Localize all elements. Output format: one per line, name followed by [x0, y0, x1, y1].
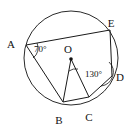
angle-label-130: 130° — [85, 69, 103, 79]
point-label-b: B — [55, 114, 62, 126]
point-label-e: E — [108, 17, 115, 29]
center-point-dot — [69, 57, 73, 61]
segment-o-b — [63, 59, 71, 102]
segment-b-c — [63, 97, 89, 102]
point-label-d: D — [116, 71, 124, 83]
geometry-canvas: A B C D E O 70° 130° — [0, 0, 135, 130]
geometry-figure: A B C D E O 70° 130° — [0, 0, 135, 130]
point-label-o: O — [64, 43, 72, 55]
point-label-a: A — [7, 38, 15, 50]
angle-label-70: 70° — [34, 44, 47, 54]
point-label-c: C — [85, 111, 92, 123]
segment-d-e — [110, 30, 112, 76]
